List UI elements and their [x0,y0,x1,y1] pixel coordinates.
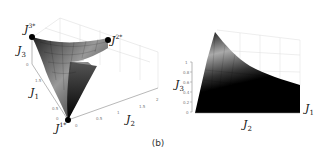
tick-y-1.5: 1.5 [35,78,41,83]
tick-z-0: 0 [186,110,189,115]
axis-label-j1: J1 [30,86,39,101]
tick-x-0: 0 [75,123,78,128]
tick-y-0: 0 [56,116,59,121]
tick-x-1.5: 1.5 [139,104,145,109]
right-surface-plot: J3 J1 J2 1 0.8 0.6 0.4 0.2 0 [165,0,316,135]
tick-z-1: 1 [185,60,188,65]
tick-x-2: 2 [156,97,159,102]
left-surface-plot: J3* J2* J1* J3 J1 J2 0 1.5 0.5 0 0 0.5 1… [0,0,165,135]
tick-z-0: 0 [26,62,29,67]
tick-z-0.8: 0.8 [183,70,189,75]
figure-caption: (b) [0,138,316,148]
axis-label-j1: J1 [305,102,314,117]
tick-z-0.6: 0.6 [183,80,189,85]
axis-label-j2: J2 [126,113,135,128]
label-j2-star: J2* [111,33,122,47]
axis-label-j3: J3 [17,44,26,59]
tick-x-0.5: 0.5 [96,116,102,121]
axis-label-j2: J2 [243,118,252,133]
tick-z-0.4: 0.4 [183,90,189,95]
label-j3-star: J3* [24,22,35,36]
left-surface-graphic [0,0,165,135]
label-j1-star: J1* [55,121,66,135]
tick-z-0.2: 0.2 [183,100,189,105]
tick-x-1: 1 [117,110,120,115]
tick-y-0.5: 0.5 [52,106,58,111]
